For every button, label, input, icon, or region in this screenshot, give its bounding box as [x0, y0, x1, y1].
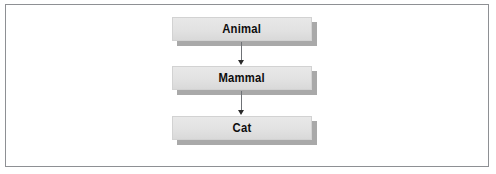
node-cat-face: Cat	[172, 116, 312, 140]
arrow-mammal-to-cat	[236, 91, 248, 116]
arrow-animal-to-mammal-line	[241, 42, 242, 62]
class-hierarchy-diagram: Animal Mammal Cat	[0, 0, 496, 174]
node-animal-face: Animal	[172, 17, 312, 41]
node-animal[interactable]: Animal	[172, 17, 312, 41]
node-mammal-face: Mammal	[172, 66, 312, 90]
node-cat[interactable]: Cat	[172, 116, 312, 140]
diagram-canvas: Animal Mammal Cat	[0, 0, 496, 174]
arrow-down-icon	[238, 110, 244, 115]
node-mammal-label: Mammal	[219, 72, 265, 84]
node-cat-label: Cat	[233, 122, 252, 134]
node-animal-label: Animal	[223, 23, 262, 35]
arrow-mammal-to-cat-line	[241, 91, 242, 112]
arrow-down-icon	[238, 60, 244, 65]
node-mammal[interactable]: Mammal	[172, 66, 312, 90]
arrow-animal-to-mammal	[236, 42, 248, 66]
